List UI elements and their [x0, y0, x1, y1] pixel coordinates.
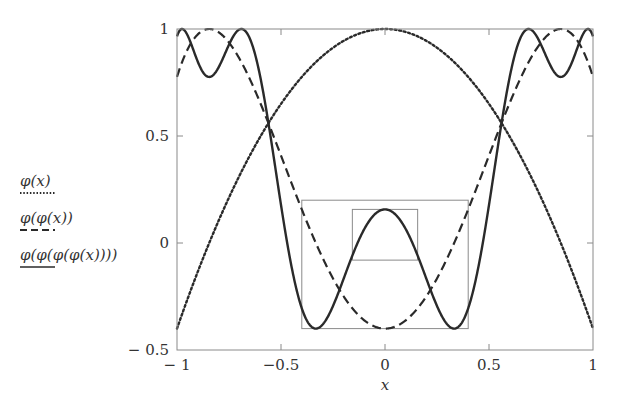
legend-label-dashed: φ(φ(x)): [20, 209, 73, 227]
legend-label-solid: φ(φ(φ(φ(x)))): [20, 246, 117, 264]
legend: φ(x)φ(φ(x))φ(φ(φ(φ(x)))): [20, 172, 117, 267]
x-tick-label: 0.5: [477, 356, 501, 374]
legend-label-dotted: φ(x): [20, 172, 51, 190]
y-tick-label: − 0.5: [128, 341, 169, 359]
curve-solid: [177, 29, 593, 329]
x-axis: − 1−0.500.51: [164, 29, 598, 374]
curve-dashed: [177, 29, 593, 329]
curves: [177, 29, 593, 329]
x-tick-label: 1: [588, 356, 598, 374]
y-tick-label: 0.5: [145, 127, 169, 145]
chart: − 1−0.500.51 − 0.500.51 x φ(x)φ(φ(x))φ(φ…: [0, 0, 621, 416]
x-tick-label: 0: [380, 356, 390, 374]
curve-dotted: [177, 29, 593, 329]
y-tick-label: 1: [159, 20, 169, 38]
plot-frame: [177, 29, 593, 350]
x-axis-label: x: [381, 376, 390, 394]
x-tick-label: −0.5: [263, 356, 299, 374]
y-tick-label: 0: [159, 234, 169, 252]
